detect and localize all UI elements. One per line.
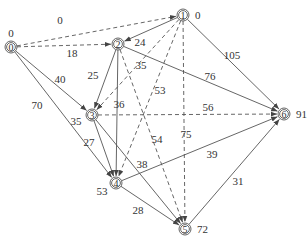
edge-weight-label: 40 [55,73,67,85]
edge-weight-label: 24 [135,36,147,48]
node-value-label: 91 [296,108,307,120]
node-value-label: 0 [8,27,14,39]
edge-weight-label: 76 [205,70,217,82]
edge-weight-label: 39 [207,148,219,160]
edge-weight-label: 36 [114,98,126,110]
edge-weight-label: 18 [67,47,79,59]
edge-weight-label: 70 [32,99,44,111]
edge-weight-label: 53 [155,84,167,96]
edge-weight-label: 0 [57,14,63,26]
node-4: 453 [97,177,123,197]
nodes-layer: 00102335453572691 [5,9,307,235]
edge-weight-label: 28 [133,204,145,216]
edges-layer [15,16,280,225]
node-id-label: 5 [183,224,188,235]
node-value-label: 0 [195,9,201,21]
edge-4-5 [121,186,179,225]
node-1: 10 [177,9,201,21]
node-2: 2 [112,38,124,50]
edge-3-6 [98,114,277,115]
edge-5-6 [189,119,280,224]
edge-weight-label: 75 [181,128,193,140]
edge-weight-label: 38 [137,158,149,170]
edge-2-4 [116,50,118,176]
edge-0-3 [16,51,87,111]
node-5: 572 [179,223,208,235]
edge-1-4 [119,21,181,177]
node-id-label: 4 [114,178,119,189]
edge-2-6 [124,46,278,111]
edge-weight-label: 54 [152,133,164,145]
edge-0-1 [17,16,176,46]
edge-weight-label: 25 [88,69,100,81]
node-id-label: 3 [90,110,95,121]
node-value-label: 35 [71,115,83,127]
edge-weight-label: 105 [224,49,241,61]
node-id-label: 6 [282,109,287,120]
edge-weight-label: 35 [136,59,148,71]
node-id-label: 2 [116,39,121,50]
node-6: 691 [278,108,307,120]
edge-1-5 [183,21,185,222]
node-0: 00 [5,27,17,53]
edge-weight-label: 27 [84,136,96,148]
network-diagram: 01840702435537510525365476273856283931 0… [0,0,307,240]
node-value-label: 53 [97,185,109,197]
edge-1-6 [187,19,279,109]
network-diagram-canvas: 01840702435537510525365476273856283931 0… [0,0,307,240]
node-3: 335 [71,109,99,127]
edge-weight-label: 56 [203,101,215,113]
node-id-label: 1 [181,10,186,21]
edge-weight-label: 31 [233,175,244,187]
node-id-label: 0 [9,42,14,53]
node-value-label: 72 [197,223,208,235]
edge-0-2 [17,44,111,47]
